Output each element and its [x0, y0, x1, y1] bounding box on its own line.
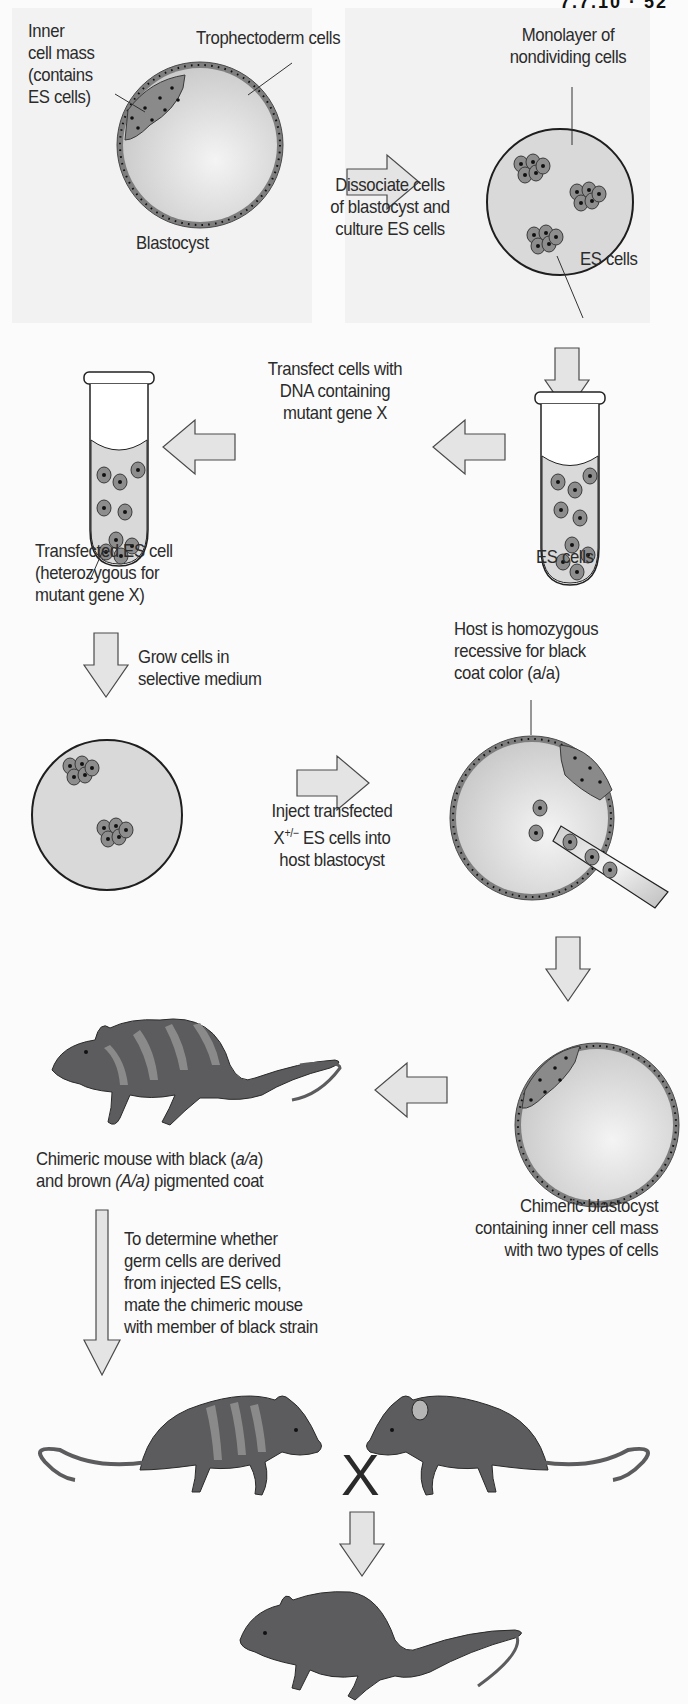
arrow-left-transfect-2	[163, 420, 235, 474]
arrow-down-grow	[84, 633, 128, 697]
transfected-es-cell-label: Transfected ES cell (heterozygous for mu…	[35, 540, 173, 606]
label-line: Transfected ES cell	[35, 540, 173, 562]
grow-label: Grow cells in selective medium	[138, 646, 262, 690]
label-line: Transfect cells with	[247, 358, 423, 380]
inner-cell-mass-label: Inner cell mass (contains ES cells)	[28, 20, 95, 108]
label-line: from injected ES cells,	[124, 1272, 318, 1294]
dissociate-label: Dissociate cells of blastocyst and cultu…	[302, 174, 478, 240]
gene-symbol: X	[274, 827, 285, 848]
blastocyst	[115, 62, 292, 228]
label-line: nondividing cells	[489, 46, 647, 68]
label-line: (heterozygous for	[35, 562, 173, 584]
chimeric-blastocyst	[515, 1043, 679, 1207]
label-line: (contains	[28, 64, 95, 86]
es-cells-tube-label: ES cells	[536, 546, 594, 568]
chimeric-blastocyst-label: Chimeric blastocyst containing inner cel…	[475, 1195, 658, 1261]
label-text: and brown	[36, 1170, 115, 1191]
label-line: Chimeric blastocyst	[475, 1195, 658, 1217]
arrow-left-to-mouse	[375, 1063, 447, 1117]
label-line: DNA containing	[247, 380, 423, 402]
label-line: and brown (A/a) pigmented coat	[36, 1170, 263, 1192]
label-line: with two types of cells	[475, 1239, 658, 1261]
label-line: Inject transfected	[244, 800, 420, 822]
mouse-offspring	[240, 1592, 522, 1700]
label-line: X+/− ES cells into	[244, 822, 420, 849]
arrow-down-chimeric	[546, 937, 590, 1001]
label-line: recessive for black	[454, 640, 598, 662]
label-line: Inner	[28, 20, 95, 42]
label-line: Grow cells in	[138, 646, 262, 668]
label-line: with member of black strain	[124, 1316, 318, 1338]
inject-label: Inject transfected X+/− ES cells into ho…	[244, 800, 420, 871]
host-blastocyst-injection	[450, 700, 668, 908]
label-line: coat color (a/a)	[454, 662, 598, 684]
monolayer-label: Monolayer of nondividing cells	[489, 24, 647, 68]
label-line: mate the chimeric mouse	[124, 1294, 318, 1316]
label-text: ES cells into	[299, 827, 391, 848]
label-line: culture ES cells	[302, 218, 478, 240]
label-text: )	[258, 1148, 263, 1169]
label-line: Monolayer of	[489, 24, 647, 46]
host-label: Host is homozygous recessive for black c…	[454, 618, 598, 684]
culture-dish-selected	[32, 740, 182, 890]
label-line: cell mass	[28, 42, 95, 64]
mouse-black-parent	[367, 1396, 649, 1495]
label-line: host blastocyst	[244, 849, 420, 871]
label-line: Host is homozygous	[454, 618, 598, 640]
label-line: Chimeric mouse with black (a/a)	[36, 1148, 263, 1170]
arrow-down-mate	[84, 1210, 120, 1375]
label-line: germ cells are derived	[124, 1250, 318, 1272]
label-line: of blastocyst and	[302, 196, 478, 218]
arrow-left-transfect-1	[433, 420, 505, 474]
label-line: containing inner cell mass	[475, 1217, 658, 1239]
chimeric-mouse	[52, 1019, 340, 1125]
culture-dish-monolayer	[487, 87, 633, 318]
label-text: Chimeric mouse with black (	[36, 1148, 236, 1169]
mate-label: To determine whether germ cells are deri…	[124, 1228, 318, 1338]
trophectoderm-label: Trophectoderm cells	[196, 27, 340, 49]
label-line: mutant gene X	[247, 402, 423, 424]
label-line: To determine whether	[124, 1228, 318, 1250]
label-text: pigmented coat	[150, 1170, 264, 1191]
label-line: selective medium	[138, 668, 262, 690]
arrow-down-offspring	[340, 1512, 384, 1576]
genotype: a/a	[236, 1148, 258, 1169]
blastocyst-label: Blastocyst	[136, 232, 209, 254]
label-line: Dissociate cells	[302, 174, 478, 196]
transfect-label: Transfect cells with DNA containing muta…	[247, 358, 423, 424]
genotype-superscript: +/−	[284, 826, 298, 840]
chimeric-mouse-label: Chimeric mouse with black (a/a) and brow…	[36, 1148, 263, 1192]
label-line: mutant gene X)	[35, 584, 173, 606]
mouse-chimeric-parent	[40, 1396, 322, 1495]
label-line: ES cells)	[28, 86, 95, 108]
genotype: (A/a)	[115, 1170, 149, 1191]
es-cells-dish-label: ES cells	[580, 248, 638, 270]
